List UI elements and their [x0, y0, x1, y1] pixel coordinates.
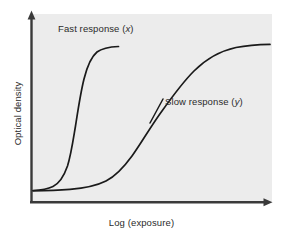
annotation-fast-response: Fast response (x) [58, 24, 134, 35]
plot-canvas [0, 0, 283, 237]
annotation-fast-response-suffix: ) [130, 23, 133, 34]
x-axis-label: Log (exposure) [0, 218, 283, 229]
figure-container: Fast response (x) Slow response (y) Log … [0, 0, 283, 237]
plot-area-background [32, 14, 272, 202]
annotation-slow-response: Slow response (y) [165, 97, 243, 108]
annotation-fast-response-prefix: Fast response ( [58, 23, 126, 34]
annotation-slow-response-prefix: Slow response ( [165, 96, 235, 107]
annotation-slow-response-suffix: ) [239, 96, 242, 107]
y-axis-label: Optical density [13, 53, 24, 173]
